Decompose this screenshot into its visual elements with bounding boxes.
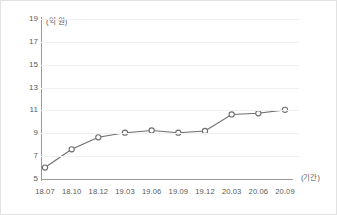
series-graphics: [41, 19, 299, 179]
x-axis-line: [41, 179, 293, 180]
gridline: [41, 156, 299, 157]
y-axis-tick-7: 7: [4, 152, 38, 160]
data-point-20.03: [229, 112, 234, 117]
y-axis-tick-19: 19: [4, 15, 38, 23]
x-axis-tick-labels: 18.0718.1018.1219.0319.0619.0919.1220.03…: [1, 187, 337, 201]
y-axis-tick-11: 11: [4, 106, 38, 114]
x-axis-unit-label: (기간): [301, 173, 320, 182]
y-axis-tick-13: 13: [4, 84, 38, 92]
data-point-20.06: [256, 111, 261, 116]
gridline: [41, 110, 299, 111]
gridline: [41, 65, 299, 66]
plot-area: [41, 19, 299, 179]
x-axis-tick-20.09: 20.09: [268, 187, 302, 196]
series-line: [45, 110, 285, 168]
y-axis-tick-5: 5: [4, 175, 38, 183]
data-point-18.12: [96, 135, 101, 140]
gridline: [41, 88, 299, 89]
y-axis-tick-15: 15: [4, 61, 38, 69]
data-point-18.10: [69, 147, 74, 152]
y-axis-tick-9: 9: [4, 129, 38, 137]
gridline: [41, 19, 299, 20]
series-markers: [42, 107, 287, 170]
data-point-19.06: [149, 128, 154, 133]
y-axis-tick-17: 17: [4, 38, 38, 46]
y-axis-tick-labels: 5791113151719: [1, 1, 38, 215]
data-point-18.07: [42, 165, 47, 170]
gridline: [41, 133, 299, 134]
line-chart: 5791113151719 (억 원) 18.0718.1018.1219.03…: [0, 0, 337, 215]
gridline: [41, 42, 299, 43]
